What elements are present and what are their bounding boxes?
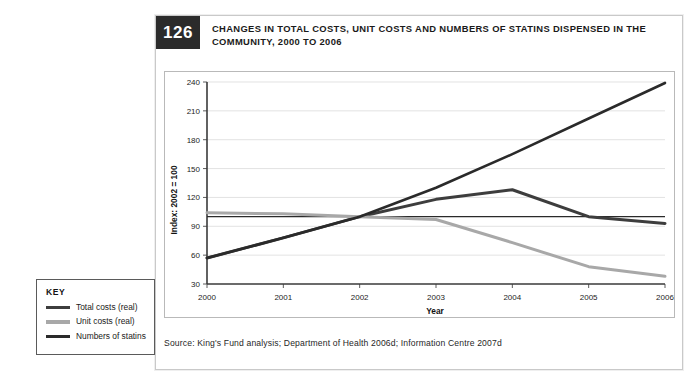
y-tick-label: 150: [187, 165, 201, 174]
y-tick-label: 180: [187, 136, 201, 145]
legend-item-label: Total costs (real): [76, 302, 137, 312]
x-tick-label: 2000: [198, 293, 216, 302]
chart-x-axis-label: Year: [426, 306, 444, 316]
x-tick-label: 2001: [274, 293, 292, 302]
chart-plot-panel: 306090120150180210240 200020012002200320…: [164, 71, 675, 318]
chart-axes: [207, 82, 665, 284]
series-line-numbers-of-statins: [207, 83, 665, 258]
legend-item-label: Unit costs (real): [76, 316, 135, 326]
series-line-total-costs-real: [207, 190, 665, 258]
y-tick-label: 120: [187, 193, 201, 202]
chart-y-axis-label: Index: 2002 = 100: [169, 165, 179, 234]
legend-items: Total costs (real)Unit costs (real)Numbe…: [46, 302, 154, 341]
legend-title: KEY: [46, 287, 154, 297]
x-tick-label: 2002: [351, 293, 369, 302]
figure-container: 126 CHANGES IN TOTAL COSTS, UNIT COSTS A…: [155, 15, 683, 370]
y-tick-label: 90: [191, 222, 200, 231]
y-tick-label: 240: [187, 78, 201, 87]
y-tick-label: 210: [187, 107, 201, 116]
legend-swatch-icon: [46, 320, 70, 323]
chart-y-axis-ticks: 306090120150180210240: [187, 78, 207, 289]
chart-legend: KEY Total costs (real)Unit costs (real)N…: [36, 279, 155, 355]
chart-series-layer: [207, 83, 665, 276]
chart-gridlines: [207, 82, 665, 255]
x-tick-label: 2003: [427, 293, 445, 302]
y-tick-label: 30: [191, 280, 200, 289]
x-tick-label: 2006: [656, 293, 674, 302]
x-tick-label: 2005: [580, 293, 598, 302]
y-tick-label: 60: [191, 251, 200, 260]
chart-x-axis-ticks: 2000200120022003200420052006: [198, 284, 674, 302]
legend-item-label: Numbers of statins: [76, 331, 146, 341]
figure-title: CHANGES IN TOTAL COSTS, UNIT COSTS AND N…: [212, 22, 667, 49]
figure-number-badge: 126: [156, 16, 200, 49]
legend-swatch-icon: [46, 306, 70, 309]
source-text: Source: King's Fund analysis; Department…: [164, 338, 502, 348]
legend-item: Numbers of statins: [46, 331, 154, 341]
legend-item: Total costs (real): [46, 302, 154, 312]
legend-item: Unit costs (real): [46, 316, 154, 326]
series-line-unit-costs-real: [207, 213, 665, 276]
source-bar: Source: King's Fund analysis; Department…: [164, 328, 675, 358]
figure-header: 126 CHANGES IN TOTAL COSTS, UNIT COSTS A…: [156, 16, 682, 66]
legend-swatch-icon: [46, 335, 70, 338]
x-tick-label: 2004: [503, 293, 521, 302]
line-chart: 306090120150180210240 200020012002200320…: [165, 72, 674, 317]
